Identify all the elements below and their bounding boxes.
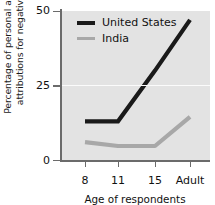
legend: United States India	[77, 16, 177, 48]
x-tick-label-15: 15	[135, 175, 175, 187]
x-axis-line	[60, 160, 210, 162]
x-axis-title: Age of respondents	[55, 193, 215, 205]
x-tick-mark-11	[118, 160, 120, 167]
x-tick-label-11: 11	[98, 175, 138, 187]
legend-item-united-states: United States	[77, 16, 177, 29]
gridline-25	[62, 85, 210, 87]
legend-label-india: India	[102, 33, 129, 45]
y-tick-label-50: 50	[26, 5, 50, 16]
y-tick-label-0: 0	[26, 155, 50, 166]
x-tick-mark-adult	[190, 160, 192, 167]
x-tick-label-adult: Adult	[170, 175, 210, 187]
line-chart-figure: Percentage of personal and situational a…	[0, 0, 215, 205]
legend-swatch-india	[77, 37, 95, 41]
y-axis-title-line1: Percentage of personal and situational	[2, 0, 14, 114]
legend-label-united-states: United States	[102, 17, 177, 29]
x-tick-mark-15	[155, 160, 157, 167]
x-tick-mark-8	[85, 160, 87, 167]
y-tick-label-25: 25	[26, 80, 50, 91]
y-axis-title-line2: attributions for negative behaviors	[14, 0, 26, 105]
legend-swatch-united-states	[77, 21, 95, 25]
legend-item-india: India	[77, 32, 177, 45]
